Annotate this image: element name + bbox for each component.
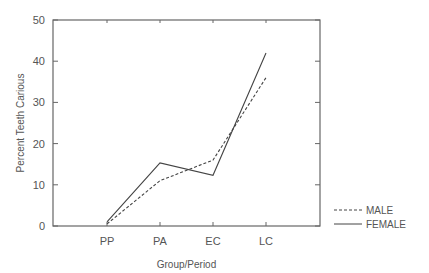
legend-label-male: MALE xyxy=(366,205,394,216)
x-tick-label: LC xyxy=(259,235,273,247)
x-tick-label: EC xyxy=(205,235,220,247)
series-line-female xyxy=(107,53,266,222)
x-axis-label: Group/Period xyxy=(157,259,216,270)
series-line-male xyxy=(107,78,266,224)
x-tick-label: PA xyxy=(153,235,168,247)
y-tick-label: 10 xyxy=(33,179,45,191)
y-tick-label: 40 xyxy=(33,55,45,67)
legend-label-female: FEMALE xyxy=(366,219,406,230)
y-tick-label: 30 xyxy=(33,96,45,108)
y-tick-label: 0 xyxy=(39,220,45,232)
y-axis-label: Percent Teeth Carious xyxy=(15,74,26,173)
chart: 01020304050PPPAECLCGroup/PeriodPercent T… xyxy=(0,0,429,273)
plot-frame xyxy=(53,20,320,226)
y-tick-label: 20 xyxy=(33,138,45,150)
x-tick-label: PP xyxy=(100,235,115,247)
y-tick-label: 50 xyxy=(33,14,45,26)
